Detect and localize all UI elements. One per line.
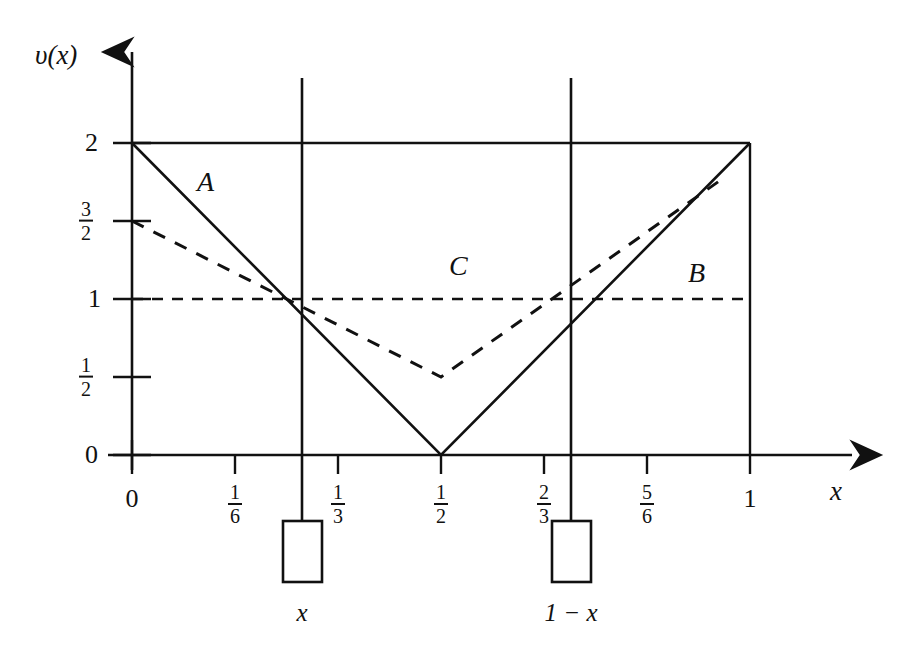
x-tick-5-6-numerator: 5: [640, 482, 654, 505]
y-tick-label-3-2: 3 2: [79, 199, 93, 244]
box-x: [283, 521, 322, 582]
curve-label-b: B: [688, 259, 705, 287]
x-tick-label-1-2: 1 2: [434, 482, 448, 527]
x-axis-label: x: [830, 478, 842, 505]
x-tick-label-2-3: 2 3: [537, 482, 551, 527]
y-tick-3-2-numerator: 3: [79, 199, 93, 222]
x-tick-1-6-numerator: 1: [228, 482, 242, 505]
series-b-curve: [132, 177, 725, 377]
x-tick-label-1-3: 1 3: [331, 482, 345, 527]
y-tick-label-0: 0: [85, 442, 98, 468]
y-axis-label: υ(x): [35, 42, 77, 69]
x-tick-1-3-numerator: 1: [331, 482, 345, 505]
curve-label-a: A: [197, 168, 214, 196]
x-tick-1-2-numerator: 1: [434, 482, 448, 505]
box-label-x: x: [296, 600, 307, 625]
x-tick-1-2-denominator: 2: [434, 505, 448, 526]
x-tick-1-6-denominator: 6: [228, 505, 242, 526]
x-tick-2-3-denominator: 3: [537, 505, 551, 526]
y-tick-1-2-denominator: 2: [79, 378, 93, 399]
y-tick-1-2-numerator: 1: [79, 355, 93, 378]
box-one-minus-x: [552, 521, 591, 582]
y-tick-label-2: 2: [85, 130, 98, 156]
figure-canvas: υ(x) x 2 3 2 1 1 2 0 0 1 6 1 3 1 2: [0, 0, 898, 647]
x-tick-label-1-6: 1 6: [228, 482, 242, 527]
x-tick-2-3-numerator: 2: [537, 482, 551, 505]
plot-svg: [0, 0, 898, 647]
x-tick-1-3-denominator: 3: [331, 505, 345, 526]
x-tick-label-5-6: 5 6: [640, 482, 654, 527]
y-tick-3-2-denominator: 2: [79, 222, 93, 243]
x-tick-label-1: 1: [744, 486, 757, 512]
y-tick-label-1-2: 1 2: [79, 355, 93, 400]
box-label-one-minus-x: 1 − x: [545, 600, 598, 625]
x-tick-label-0: 0: [126, 486, 139, 512]
curve-label-c: C: [449, 252, 468, 280]
x-tick-5-6-denominator: 6: [640, 505, 654, 526]
y-tick-label-1: 1: [88, 286, 101, 312]
